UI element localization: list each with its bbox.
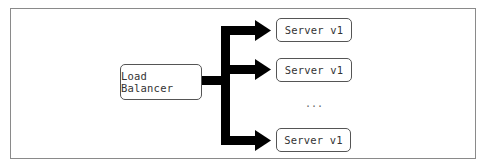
server-label: Server v1 xyxy=(285,24,344,36)
server-node-2: Server v1 xyxy=(276,58,352,82)
load-balancer-label: Load Balancer xyxy=(121,70,201,94)
load-balancer-node: Load Balancer xyxy=(120,64,202,100)
server-node-3: Server v1 xyxy=(276,128,351,152)
trunk-line xyxy=(221,26,230,145)
connector-arrows xyxy=(0,0,488,165)
server-label: Server v1 xyxy=(284,134,343,146)
ellipsis: ... xyxy=(276,98,352,109)
server-label: Server v1 xyxy=(285,64,344,76)
server-node-1: Server v1 xyxy=(276,18,352,42)
